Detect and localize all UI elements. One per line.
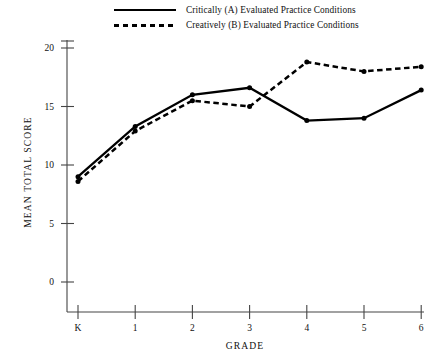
y-tick-label: 10 [45, 160, 55, 170]
series-markers-creatively-b [76, 60, 424, 184]
x-tick-label: 1 [133, 323, 138, 333]
data-point-marker [419, 88, 424, 93]
y-tick-label: 15 [45, 102, 55, 112]
x-tick-label: 6 [419, 323, 424, 333]
data-point-marker [304, 118, 309, 123]
x-axis-title: GRADE [226, 340, 265, 351]
series-line-creatively-b [78, 62, 421, 181]
y-axis-title: MEAN TOTAL SCORE [22, 116, 33, 228]
data-point-marker [133, 129, 138, 134]
data-point-marker [247, 104, 252, 109]
series-line-critically-a [78, 88, 421, 177]
data-point-marker [190, 92, 195, 97]
data-point-marker [304, 60, 309, 65]
data-point-marker [362, 69, 367, 74]
data-point-marker [76, 174, 81, 179]
y-axis-tick-labels: 05101520 [45, 43, 55, 287]
y-tick-label: 5 [49, 219, 54, 229]
chart-svg: 05101520 K123456 GRADE MEAN TOTAL SCORE [0, 0, 430, 357]
data-point-marker [190, 98, 195, 103]
plot-area: 05101520 K123456 GRADE MEAN TOTAL SCORE [0, 0, 430, 357]
data-point-marker [362, 116, 367, 121]
data-point-marker [419, 64, 424, 69]
x-tick-label: 3 [247, 323, 252, 333]
y-tick-label: 0 [49, 277, 54, 287]
chart-container: Critically (A) Evaluated Practice Condit… [0, 0, 430, 357]
x-tick-label: 2 [190, 323, 195, 333]
x-tick-label: 5 [362, 323, 367, 333]
x-tick-label: K [75, 323, 82, 333]
y-tick-label: 20 [45, 43, 55, 53]
data-point-marker [247, 85, 252, 90]
x-axis-tick-labels: K123456 [75, 323, 424, 333]
data-point-marker [133, 124, 138, 129]
data-point-marker [76, 179, 81, 184]
x-tick-label: 4 [304, 323, 309, 333]
